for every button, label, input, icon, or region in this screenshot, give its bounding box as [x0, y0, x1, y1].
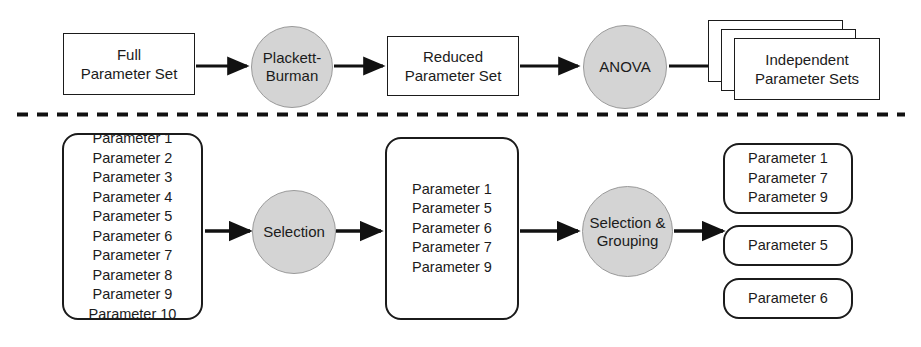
node-independent-parameter-sets[interactable]: Independent Parameter Sets [734, 38, 880, 100]
node-input-parameter-list[interactable]: Parameter 1 Parameter 2 Parameter 3 Para… [62, 133, 203, 320]
plackett-burman-line1: Plackett- [263, 49, 321, 67]
independent-parameter-sets-line2: Parameter Sets [755, 69, 859, 88]
list-item: Parameter 5 [748, 236, 828, 256]
list-item: Parameter 9 [412, 258, 492, 278]
full-parameter-set-line1: Full [117, 45, 141, 64]
list-item: Parameter 5 [412, 199, 492, 219]
anova-label: ANOVA [599, 58, 650, 76]
full-parameter-set-line2: Parameter Set [81, 64, 178, 83]
node-reduced-parameter-set[interactable]: Reduced Parameter Set [387, 36, 519, 96]
node-selection[interactable]: Selection [252, 190, 336, 274]
selection-grouping-line1: Selection & [590, 214, 666, 232]
list-item: Parameter 7 [412, 238, 492, 258]
list-item: Parameter 1 [412, 180, 492, 200]
node-plackett-burman[interactable]: Plackett- Burman [251, 26, 333, 108]
list-item: Parameter 6 [93, 227, 173, 247]
list-item: Parameter 7 [93, 246, 173, 266]
list-item: Parameter 9 [748, 188, 828, 208]
reduced-parameter-set-line1: Reduced [423, 47, 483, 66]
node-group-2[interactable]: Parameter 5 [723, 225, 853, 266]
list-item: Parameter 5 [93, 207, 173, 227]
independent-parameter-sets-line1: Independent [765, 50, 848, 69]
list-item: Parameter 6 [412, 219, 492, 239]
list-item: Parameter 2 [93, 149, 173, 169]
list-item: Parameter 9 [93, 285, 173, 305]
list-item: Parameter 3 [93, 168, 173, 188]
selection-label: Selection [263, 223, 325, 241]
list-item: Parameter 1 [93, 129, 173, 149]
list-item: Parameter 4 [93, 188, 173, 208]
selection-grouping-line2: Grouping [597, 232, 659, 250]
node-group-1[interactable]: Parameter 1 Parameter 7 Parameter 9 [723, 143, 853, 214]
list-item: Parameter 10 [89, 305, 177, 325]
node-selection-and-grouping[interactable]: Selection & Grouping [582, 186, 673, 277]
plackett-burman-line2: Burman [266, 67, 319, 85]
node-anova[interactable]: ANOVA [583, 25, 667, 109]
node-full-parameter-set[interactable]: Full Parameter Set [63, 33, 195, 95]
node-group-3[interactable]: Parameter 6 [723, 278, 853, 319]
flow-diagram-canvas: Full Parameter Set Plackett- Burman Redu… [0, 0, 921, 347]
list-item: Parameter 1 [748, 149, 828, 169]
list-item: Parameter 7 [748, 169, 828, 189]
list-item: Parameter 8 [93, 266, 173, 286]
reduced-parameter-set-line2: Parameter Set [405, 66, 502, 85]
node-reduced-parameter-list[interactable]: Parameter 1 Parameter 5 Parameter 6 Para… [385, 137, 519, 320]
list-item: Parameter 6 [748, 289, 828, 309]
